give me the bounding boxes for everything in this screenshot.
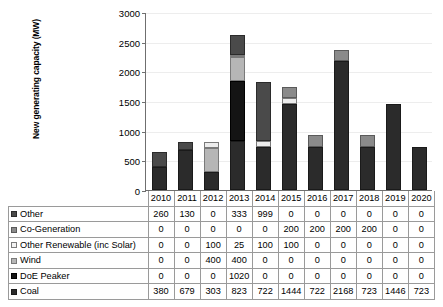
table-cell: 333: [226, 206, 252, 222]
table-cell: 130: [174, 206, 200, 222]
table-header-year: 2013: [226, 191, 252, 206]
table-cell: 0: [356, 253, 382, 269]
table-cell: 0: [382, 253, 408, 269]
table-cell: 0: [174, 253, 200, 269]
table-cell: 0: [356, 206, 382, 222]
table-header-year: 2011: [174, 191, 200, 206]
legend-item-coal[interactable]: Coal: [9, 284, 149, 300]
table-cell: 0: [148, 253, 174, 269]
stacked-bar[interactable]: [230, 35, 245, 190]
chart-figure: New generating capacity (MW) 05001000150…: [0, 0, 443, 307]
bar-slot-2011: [172, 13, 198, 190]
bar-segment: [152, 167, 167, 190]
table-row: Wind004004000000000: [9, 253, 435, 269]
bar-segment: [334, 61, 349, 190]
table-cell: 0: [356, 237, 382, 253]
legend-item-co-generation[interactable]: Co-Generation: [9, 222, 149, 238]
bar-segment: [256, 82, 271, 141]
table-cell: 0: [278, 253, 304, 269]
bar-slot-2018: [354, 13, 380, 190]
table-cell: 0: [278, 206, 304, 222]
stacked-bar[interactable]: [386, 104, 401, 190]
table-cell: 0: [252, 253, 278, 269]
y-axis-tick-label: 1500: [119, 97, 140, 108]
table-cell: 400: [200, 253, 226, 269]
stacked-bar[interactable]: [412, 147, 427, 190]
table-cell: 0: [200, 268, 226, 284]
stacked-bar[interactable]: [334, 50, 349, 190]
table-header-year: 2019: [382, 191, 408, 206]
table-cell: 1020: [226, 268, 252, 284]
legend-swatch-icon: [11, 289, 17, 295]
table-cell: 2168: [330, 284, 356, 300]
table-cell: 0: [174, 237, 200, 253]
bar-segment: [204, 172, 219, 190]
stacked-bar[interactable]: [256, 82, 271, 190]
bar-segment: [152, 152, 167, 167]
y-axis-tick-label: 3000: [119, 8, 140, 19]
table-row: Other2601300333999000000: [9, 206, 435, 222]
bar-segment: [386, 104, 401, 190]
bar-slot-2014: [250, 13, 276, 190]
table-cell: 200: [330, 222, 356, 238]
stacked-bar[interactable]: [282, 87, 297, 190]
table-cell: 303: [200, 284, 226, 300]
bar-segment: [230, 81, 245, 142]
stacked-bar[interactable]: [178, 142, 193, 190]
table-corner-cell: [9, 191, 149, 206]
table-header-year: 2015: [278, 191, 304, 206]
bar-slot-2019: [380, 13, 406, 190]
data-table: 2010201120122013201420152016201720182019…: [8, 191, 435, 300]
table-cell: 0: [148, 237, 174, 253]
legend-label: Wind: [20, 255, 41, 265]
y-axis-tick-label: 2000: [119, 67, 140, 78]
bar-segment: [178, 150, 193, 190]
stacked-bar[interactable]: [152, 152, 167, 190]
bar-segment: [282, 104, 297, 190]
legend-item-other-renewable-inc-solar[interactable]: Other Renewable (inc Solar): [9, 237, 149, 253]
table-cell: 200: [278, 222, 304, 238]
bar-segment: [360, 147, 375, 190]
table-cell: 0: [330, 253, 356, 269]
stacked-bar[interactable]: [360, 135, 375, 190]
legend-label: Coal: [20, 286, 39, 296]
table-cell: 25: [226, 237, 252, 253]
table-header-year: 2012: [200, 191, 226, 206]
bar-segment: [230, 57, 245, 81]
table-cell: 0: [408, 253, 434, 269]
y-axis-title: New generating capacity (MW): [31, 19, 41, 139]
table-cell: 100: [200, 237, 226, 253]
stacked-bar[interactable]: [308, 135, 323, 190]
table-cell: 0: [148, 222, 174, 238]
table-cell: 999: [252, 206, 278, 222]
table-cell: 0: [408, 237, 434, 253]
table-cell: 0: [382, 268, 408, 284]
bar-group: [146, 13, 432, 190]
legend-swatch-icon: [11, 242, 17, 248]
legend-item-other[interactable]: Other: [9, 206, 149, 222]
table-cell: 0: [408, 268, 434, 284]
table-cell: 0: [382, 237, 408, 253]
table-cell: 100: [252, 237, 278, 253]
table-row: Co-Generation0000020020020020000: [9, 222, 435, 238]
bar-slot-2010: [146, 13, 172, 190]
table-cell: 200: [304, 222, 330, 238]
legend-swatch-icon: [11, 273, 17, 279]
legend-item-wind[interactable]: Wind: [9, 253, 149, 269]
table-cell: 0: [148, 268, 174, 284]
table-cell: 0: [278, 268, 304, 284]
bar-segment: [230, 141, 245, 190]
table-cell: 380: [148, 284, 174, 300]
bar-slot-2012: [198, 13, 224, 190]
bar-slot-2016: [302, 13, 328, 190]
table-cell: 0: [200, 206, 226, 222]
table-cell: 0: [304, 253, 330, 269]
stacked-bar[interactable]: [204, 142, 219, 190]
table-cell: 0: [174, 222, 200, 238]
legend-item-doe-peaker[interactable]: DoE Peaker: [9, 268, 149, 284]
chart-plot-region: New generating capacity (MW) 05001000150…: [0, 0, 443, 196]
bar-segment: [308, 135, 323, 147]
bar-segment: [256, 147, 271, 190]
table-cell: 0: [252, 222, 278, 238]
table-cell: 679: [174, 284, 200, 300]
